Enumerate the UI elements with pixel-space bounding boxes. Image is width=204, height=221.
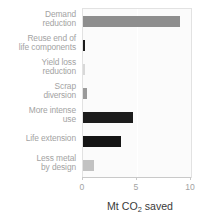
category-label: Yield lossreduction — [0, 58, 76, 77]
category-label-line: Life extension — [0, 134, 76, 143]
bar — [83, 16, 180, 27]
x-axis-tick-label: 10 — [178, 182, 202, 192]
x-axis-title-suffix: saved — [142, 200, 173, 212]
bar-chart: DemandreductionReuse end oflife componen… — [0, 0, 204, 221]
bar — [83, 136, 121, 147]
category-label: Demandreduction — [0, 10, 76, 29]
bar — [83, 88, 87, 99]
plot-area — [82, 8, 192, 178]
x-axis-title-main: Mt CO — [107, 200, 138, 212]
x-axis-tick — [136, 177, 137, 180]
category-label-line: life components — [0, 43, 76, 52]
category-label-line: reduction — [0, 67, 76, 76]
category-label-line: reduction — [0, 19, 76, 28]
x-axis-tick-label: 0 — [70, 182, 94, 192]
bar — [83, 64, 85, 75]
category-label-line: use — [0, 115, 76, 124]
category-label-line: diversion — [0, 91, 76, 100]
x-axis-title-subscript: 2 — [138, 205, 142, 214]
x-axis-title: Mt CO2 saved — [76, 200, 204, 214]
category-label: Reuse end oflife components — [0, 34, 76, 53]
category-label: More intenseuse — [0, 106, 76, 125]
gridline — [137, 9, 138, 177]
category-label: Less metalby design — [0, 154, 76, 173]
category-label: Life extension — [0, 134, 76, 143]
bar — [83, 112, 133, 123]
x-axis-tick-label: 5 — [124, 182, 148, 192]
category-label: Scrapdiversion — [0, 82, 76, 101]
category-label-column: DemandreductionReuse end oflife componen… — [0, 8, 76, 176]
bar — [83, 160, 94, 171]
gridline — [191, 9, 192, 177]
x-axis-tick — [82, 177, 83, 180]
bar — [83, 40, 85, 51]
category-label-line: by design — [0, 163, 76, 172]
x-axis-tick — [190, 177, 191, 180]
